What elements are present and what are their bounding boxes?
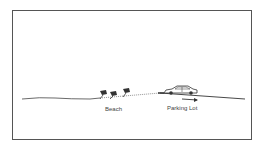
beach-figure-2 <box>110 91 117 99</box>
car-icon <box>158 86 197 95</box>
beach-label: Beach <box>105 106 122 112</box>
beach-figure-1 <box>100 90 107 99</box>
ground-line <box>22 98 100 99</box>
beach-scene <box>0 0 267 148</box>
parking-lot-label: Parking Lot <box>167 105 197 111</box>
parking-lot-surface <box>160 93 245 99</box>
beach-sand-line <box>100 93 160 98</box>
arrow-right-icon <box>182 98 198 102</box>
